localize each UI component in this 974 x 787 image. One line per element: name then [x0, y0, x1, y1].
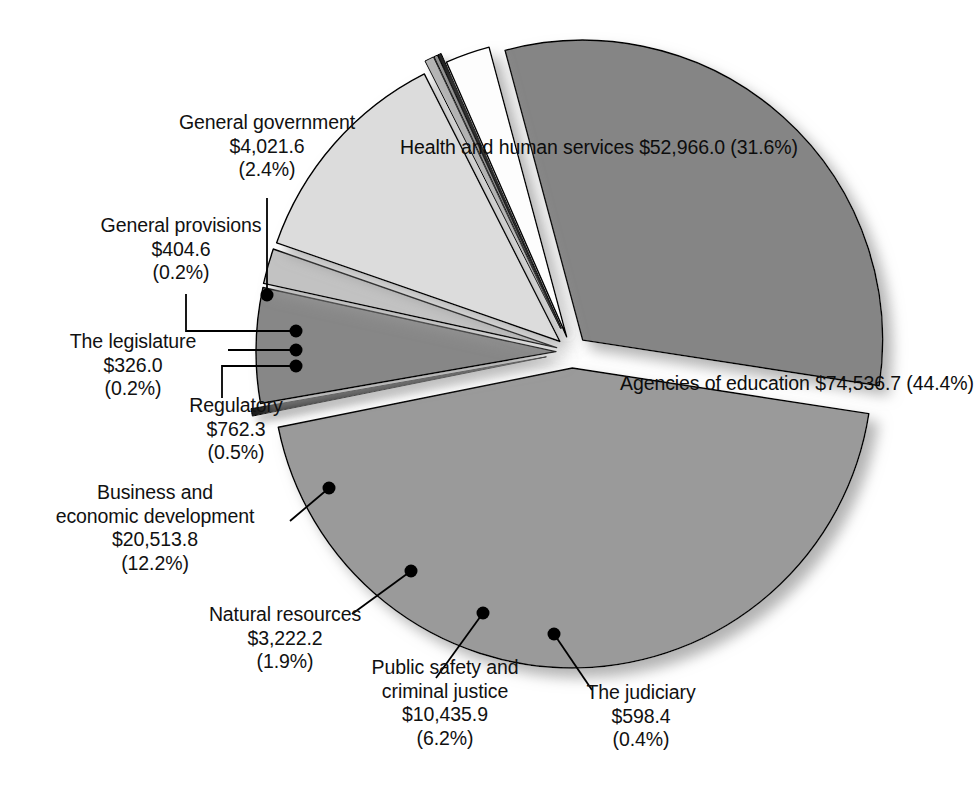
- callout-public-safety-and-criminal-justice: Public safety and criminal justice $10,4…: [330, 656, 560, 750]
- slice-label-agencies-of-education: Agencies of education $74,536.7 (44.4%): [620, 372, 870, 396]
- callout-line1: General provisions: [66, 214, 296, 238]
- callout-line1: Public safety and: [330, 656, 560, 680]
- leader-dot-general-government: [261, 289, 274, 302]
- callout-line2: $598.4: [551, 705, 731, 729]
- leader-dot-regulatory: [290, 360, 303, 373]
- callout-line2: $326.0: [18, 354, 248, 378]
- callout-general-government: General government $4,021.6 (2.4%): [152, 111, 382, 182]
- callout-line3: $20,513.8: [10, 528, 300, 552]
- leader-dot-general-provisions: [290, 325, 303, 338]
- callout-the-judiciary: The judiciary $598.4 (0.4%): [551, 681, 731, 752]
- leader-dot-legislature: [290, 344, 303, 357]
- callout-line1: General government: [152, 111, 382, 135]
- callout-line3: (0.5%): [146, 441, 326, 465]
- callout-line1: Business and: [10, 481, 300, 505]
- callout-line2: $3,222.2: [170, 627, 400, 651]
- callout-line2: criminal justice: [330, 680, 560, 704]
- callout-line3: $10,435.9: [330, 703, 560, 727]
- callout-line4: (12.2%): [10, 552, 300, 576]
- callout-the-legislature: The legislature $326.0 (0.2%): [18, 330, 248, 401]
- slice-label-line2: services $52,966.0: [563, 136, 725, 158]
- leader-dot-public-safety: [477, 607, 490, 620]
- callout-line3: (2.4%): [152, 158, 382, 182]
- callout-line1: The legislature: [18, 330, 248, 354]
- callout-line1: Regulatory: [146, 394, 326, 418]
- callout-line2: $762.3: [146, 418, 326, 442]
- slice-label-line2: $74,536.7: [815, 372, 901, 394]
- callout-line4: (6.2%): [330, 727, 560, 751]
- callout-line3: (0.4%): [551, 728, 731, 752]
- leader-dot-natural-resources: [405, 565, 418, 578]
- callout-line1: Natural resources: [170, 603, 400, 627]
- slice-label-line3: (31.6%): [730, 136, 798, 158]
- callout-general-provisions: General provisions $404.6 (0.2%): [66, 214, 296, 285]
- callout-business-and-economic-development: Business and economic development $20,51…: [10, 481, 300, 575]
- leader-dot-business: [323, 482, 336, 495]
- slice-label-health-and-human-services: Health and human services $52,966.0 (31.…: [400, 136, 650, 160]
- pie-slice-health[interactable]: [505, 40, 883, 386]
- callout-line2: $404.6: [66, 238, 296, 262]
- leader-dot-judiciary: [548, 628, 561, 641]
- callout-regulatory: Regulatory $762.3 (0.5%): [146, 394, 326, 465]
- slice-label-line3: (44.4%): [906, 372, 974, 394]
- slice-label-line1: Agencies of education: [620, 372, 810, 394]
- callout-line2: economic development: [10, 505, 300, 529]
- callout-line3: (0.2%): [66, 261, 296, 285]
- slice-label-line1: Health and human: [400, 136, 558, 158]
- callout-line1: The judiciary: [551, 681, 731, 705]
- callout-line2: $4,021.6: [152, 135, 382, 159]
